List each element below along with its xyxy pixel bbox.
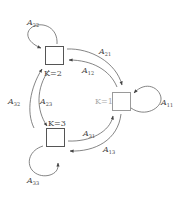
edge-a32: A32 [7, 69, 42, 128]
edge-label-a13: A13 [102, 145, 115, 155]
edge-a33: A33 [26, 146, 58, 186]
self-loop-arrow-k3 [29, 146, 58, 176]
edge-label-a32: A32 [7, 97, 20, 107]
self-loop-arrow-k2 [28, 25, 57, 48]
edge-a11: A11 [131, 86, 173, 112]
state-label-k3: K=3 [48, 119, 66, 128]
edge-label-a23: A23 [39, 97, 52, 107]
edge-label-a21: A21 [98, 47, 111, 57]
edge-label-a11: A11 [160, 98, 173, 108]
edge-a21: A21 [67, 47, 122, 85]
state-k3: K=3 [47, 119, 66, 147]
edge-a22: A22 [26, 18, 57, 48]
state-box-k2 [46, 47, 64, 65]
state-k1: K=1 [95, 93, 131, 111]
state-transition-diagram: K=2 K=1 K=3 A22 A11 A33 A21 A12 A31 A13 [0, 0, 179, 197]
state-box-k1 [113, 93, 131, 111]
edge-label-a22: A22 [26, 18, 39, 28]
arrow-k1-to-k3 [70, 114, 121, 151]
edge-label-a31: A31 [82, 129, 95, 139]
edge-a23: A23 [39, 70, 52, 126]
edge-a13: A13 [70, 114, 121, 155]
edge-label-a12: A12 [81, 66, 94, 76]
state-label-k1: K=1 [95, 97, 113, 106]
arrow-k2-to-k1 [67, 49, 122, 85]
edge-a31: A31 [68, 116, 113, 141]
self-loop-arrow-k1 [131, 86, 161, 112]
edge-a12: A12 [69, 60, 117, 87]
edge-label-a33: A33 [26, 176, 39, 186]
state-box-k3 [47, 129, 65, 147]
